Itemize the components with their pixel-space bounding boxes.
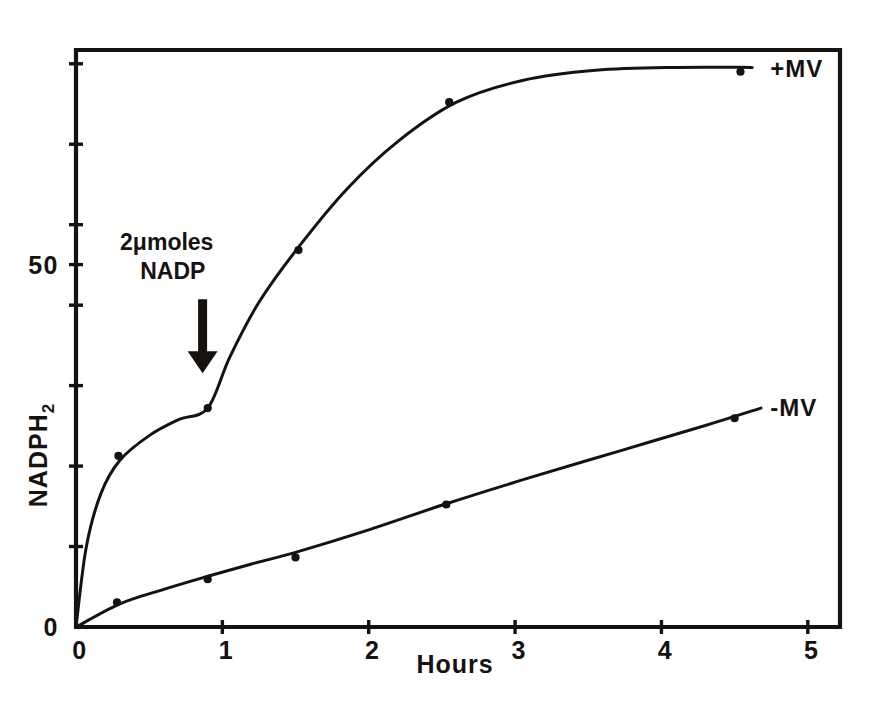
data-point bbox=[204, 404, 212, 412]
y-axis-title: NADPH2 bbox=[24, 403, 58, 507]
y-tick-label: 50 bbox=[28, 251, 59, 279]
series-label-minusMV: -MV bbox=[770, 394, 817, 421]
y-axis-title-base: NADPH bbox=[24, 413, 52, 507]
series-curves bbox=[76, 67, 761, 627]
nadp-addition-annotation: 2μmoles NADP bbox=[120, 229, 218, 373]
plot-frame bbox=[76, 50, 840, 627]
y-tick-label: 0 bbox=[44, 613, 59, 641]
annotation-line-1: 2μmoles bbox=[120, 229, 213, 255]
data-point bbox=[291, 553, 299, 561]
down-arrow-icon bbox=[188, 299, 218, 373]
annotation-line-2: NADP bbox=[140, 258, 205, 284]
series-data-points bbox=[113, 68, 745, 607]
x-axis-title: Hours bbox=[416, 650, 493, 678]
data-point bbox=[445, 98, 453, 106]
series-curve-minusMV bbox=[76, 408, 761, 627]
data-point bbox=[113, 598, 121, 606]
data-point bbox=[736, 68, 744, 76]
series-label-plusMV: +MV bbox=[770, 55, 823, 82]
y-axis-title-subscript: 2 bbox=[39, 403, 58, 413]
x-tick-label: 0 bbox=[72, 636, 87, 664]
nadph2-time-course-chart: 050 012345 +MV-MV 2μmoles NADP Hours NAD… bbox=[0, 0, 888, 704]
figure-container: 050 012345 +MV-MV 2μmoles NADP Hours NAD… bbox=[0, 0, 888, 704]
x-tick-label: 1 bbox=[219, 636, 234, 664]
axis-box bbox=[76, 50, 840, 627]
series-labels: +MV-MV bbox=[770, 55, 823, 421]
data-point bbox=[114, 452, 122, 460]
x-tick-label: 5 bbox=[804, 636, 819, 664]
x-tick-label: 4 bbox=[658, 636, 673, 664]
data-point bbox=[294, 246, 302, 254]
x-tick-label: 3 bbox=[511, 636, 526, 664]
series-curve-plusMV bbox=[76, 67, 752, 627]
data-point bbox=[731, 414, 739, 422]
data-point bbox=[204, 575, 212, 583]
data-point bbox=[442, 500, 450, 508]
y-axis-title-text: NADPH2 bbox=[24, 403, 58, 507]
x-tick-label: 2 bbox=[365, 636, 380, 664]
